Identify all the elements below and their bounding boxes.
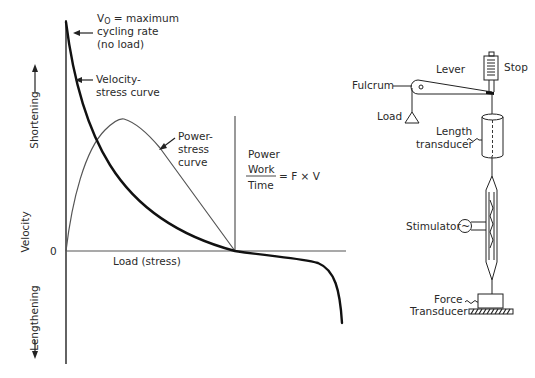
arrow-left-icon	[73, 30, 93, 36]
stimulator: ~	[459, 220, 487, 234]
lengthening-label: Lengthening	[28, 285, 40, 351]
force-transducer	[465, 294, 513, 314]
sine-wave-icon: ~	[461, 220, 470, 233]
length-transducer-label-2: transducer	[416, 138, 474, 150]
svg-text:Power-: Power-	[178, 130, 213, 142]
length-transducer-label-1: Length	[436, 125, 472, 137]
svg-text:stress: stress	[178, 143, 209, 155]
svg-text:Work: Work	[248, 163, 276, 175]
fulcrum-pivot	[419, 85, 423, 89]
svg-text:cycling rate: cycling rate	[97, 25, 159, 37]
svg-text:(no load): (no load)	[97, 38, 144, 50]
y-axis-label: Velocity	[19, 211, 31, 252]
load-weight	[405, 112, 419, 123]
force-velocity-graph: 0 Velocity Shortening Lengthening Load (…	[19, 12, 346, 364]
figure: 0 Velocity Shortening Lengthening Load (…	[0, 0, 535, 378]
stimulator-label: Stimulator	[406, 220, 461, 232]
arrow-down-left-icon	[159, 138, 175, 150]
x-axis-label: Load (stress)	[113, 255, 181, 267]
svg-text:curve: curve	[178, 156, 207, 168]
power-curve-annotation: Power- stress curve	[159, 130, 213, 168]
svg-text:VO = maximum: VO = maximum	[97, 12, 179, 26]
velocity-curve-annotation: Velocity- stress curve	[75, 73, 160, 98]
shortening-label: Shortening	[28, 91, 40, 149]
svg-text:Velocity-: Velocity-	[96, 73, 141, 85]
lever-label: Lever	[436, 63, 466, 75]
load-label: Load	[377, 110, 402, 122]
stop-label: Stop	[504, 61, 528, 73]
length-transducer	[467, 114, 503, 158]
fulcrum-label: Fulcrum	[352, 79, 394, 91]
force-transducer-label-1: Force	[434, 293, 462, 305]
y-zero-label: 0	[50, 245, 57, 257]
stop	[484, 52, 498, 92]
power-formula: Power Work Time = F × V	[246, 148, 321, 191]
svg-text:Power: Power	[248, 148, 280, 160]
force-transducer-label-2: Transducer	[409, 305, 468, 317]
shortening-arrow-icon	[32, 64, 38, 92]
v0-annotation: VO = maximum cycling rate (no load)	[73, 12, 179, 50]
lever	[411, 80, 494, 95]
muscle-fiber	[486, 176, 497, 280]
svg-text:stress curve: stress curve	[96, 86, 160, 98]
svg-text:= F × V: = F × V	[279, 170, 321, 182]
svg-text:Time: Time	[247, 179, 274, 191]
cable-icon	[465, 301, 478, 304]
muscle-apparatus: Fulcrum Lever Load Stop	[352, 52, 528, 317]
